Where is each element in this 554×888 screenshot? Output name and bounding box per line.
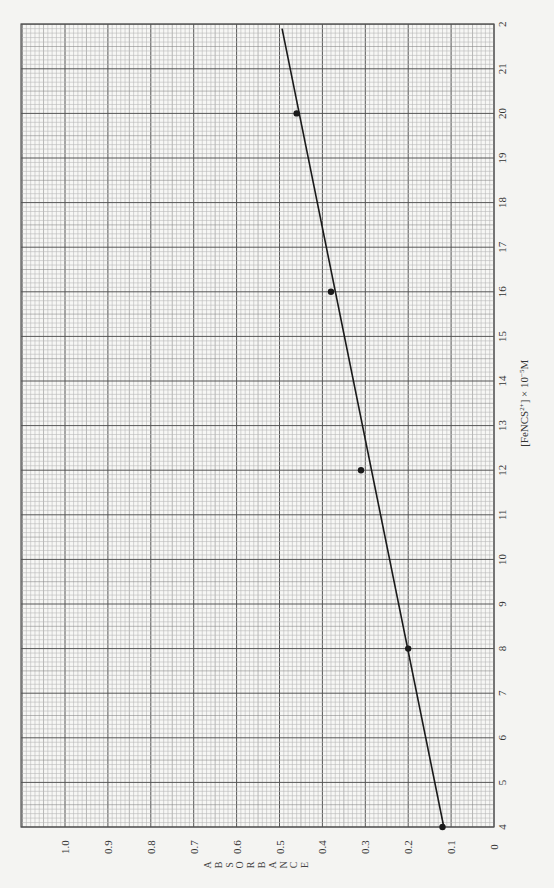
absorbance-tick: 1.0 [59,840,71,854]
absorbance-tick: 0 [488,844,500,850]
data-point [439,824,445,830]
svg-text:B: B [256,861,267,868]
absorbance-tick: 0.2 [402,840,414,854]
absorbance-tick: 0.5 [274,840,286,854]
concentration-tick: 12 [496,465,508,476]
svg-text:A: A [267,861,278,869]
concentration-tick: 18 [496,197,508,209]
graph-paper-grid [21,24,494,827]
svg-text:O: O [234,861,245,868]
absorbance-tick: 0.9 [102,840,114,854]
data-point [405,645,411,651]
concentration-tick: 13 [496,420,508,432]
concentration-tick: 7 [496,690,508,696]
svg-text:E: E [299,862,310,868]
concentration-tick: 4 [496,824,508,830]
svg-text:N: N [278,861,289,868]
data-point [293,110,299,116]
absorbance-tick: 0.7 [188,840,200,854]
absorbance-tick: 0.4 [316,840,328,854]
concentration-tick: 10 [496,553,508,565]
concentration-tick: 17 [496,241,508,253]
svg-text:S: S [224,862,235,868]
svg-text:R: R [245,861,256,868]
svg-text:C: C [288,861,299,868]
data-point [328,289,334,295]
data-point [358,467,364,473]
absorbance-tick: 0.8 [145,840,157,854]
concentration-tick: 21 [496,63,508,74]
svg-text:B: B [213,861,224,868]
concentration-tick: 9 [496,601,508,607]
concentration-tick: 8 [496,645,508,651]
calibration-chart: 4567891011121314151617181920212 00.10.20… [0,0,554,888]
absorbance-axis-title: ABSORBANCE [202,861,310,869]
concentration-tick: 15 [496,330,508,342]
absorbance-tick: 0.3 [359,840,371,854]
absorbance-tick: 0.6 [231,840,243,854]
concentration-tick: 6 [496,735,508,741]
concentration-tick: 16 [496,286,508,298]
concentration-tick: 2 [496,21,508,27]
absorbance-tick: 0.1 [445,840,457,854]
concentration-tick: 19 [496,152,508,164]
concentration-tick: 11 [496,510,508,521]
concentration-tick: 14 [496,375,508,387]
concentration-tick: 5 [496,779,508,785]
concentration-tick: 20 [496,107,508,119]
svg-text:A: A [202,861,213,869]
